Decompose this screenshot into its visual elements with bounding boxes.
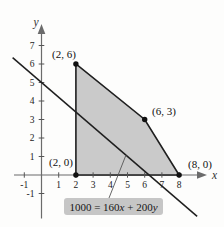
y-tick-label: 3: [30, 115, 35, 125]
vertex-dot: [73, 172, 78, 177]
x-axis-letter: x: [211, 169, 218, 181]
vertex-dot: [142, 117, 147, 122]
y-axis-letter: y: [32, 16, 39, 29]
vertex-label-2-0: (2, 0): [49, 156, 73, 169]
vertex-dot: [176, 172, 181, 177]
equation-mid: + 200: [125, 201, 153, 213]
y-tick-label: 2: [30, 133, 35, 143]
equation-y-variable: y: [153, 201, 158, 213]
y-axis-arrow-icon: [38, 24, 46, 34]
x-tick-label: 8: [177, 180, 182, 190]
vertex-label-6-3: (6, 3): [152, 105, 176, 118]
y-tick-label: 4: [30, 96, 35, 106]
feasible-region: [76, 64, 179, 175]
vertex-dot: [73, 61, 78, 66]
feasible-region-figure: -112345678-11234567 y x (2, 6) (6, 3) (2…: [0, 0, 224, 227]
x-tick-label: 4: [108, 180, 113, 190]
x-tick-label: 3: [91, 180, 96, 190]
feasible-region-polygon: [76, 64, 179, 175]
y-tick-label: 1: [30, 152, 35, 162]
x-tick-label: 5: [125, 180, 130, 190]
objective-equation-label: 1000 = 160x + 200y: [64, 198, 163, 215]
x-axis-arrow-icon: [197, 171, 207, 179]
vertex-label-2-6: (2, 6): [52, 48, 76, 61]
x-tick-label: 2: [74, 180, 79, 190]
objective-line: [13, 58, 198, 217]
equation-prefix: 1000 = 160: [69, 201, 119, 213]
objective-line-group: [13, 58, 198, 217]
vertex-label-8-0: (8, 0): [188, 158, 212, 171]
x-tick-label: 6: [142, 180, 147, 190]
plot-canvas: -112345678-11234567 y x (2, 6) (6, 3) (2…: [0, 0, 224, 227]
y-tick-label: 7: [30, 41, 35, 51]
y-tick-label: -1: [27, 189, 35, 199]
y-tick-label: 5: [30, 78, 35, 88]
y-tick-label: 6: [30, 59, 35, 69]
x-tick-label: 1: [56, 180, 61, 190]
